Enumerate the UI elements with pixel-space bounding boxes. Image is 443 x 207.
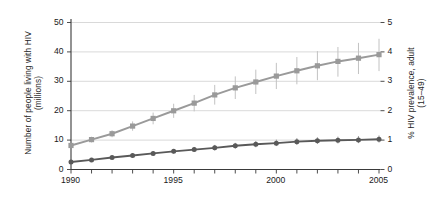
y-axis-right-tick-label: 0 xyxy=(388,164,410,174)
data-point xyxy=(110,155,115,160)
y-axis-right-tick-label: 3 xyxy=(388,75,410,85)
y-axis-right-tick-label: 4 xyxy=(388,46,410,56)
data-point xyxy=(171,149,176,154)
x-axis-tick-label: 2000 xyxy=(258,175,294,185)
x-axis-tick-label: 1990 xyxy=(53,175,89,185)
x-axis-tick-label: 2005 xyxy=(361,175,397,185)
data-point xyxy=(89,137,94,142)
series-line xyxy=(71,55,379,146)
data-point xyxy=(130,123,135,128)
data-point xyxy=(89,157,94,162)
data-point xyxy=(376,52,381,57)
data-point xyxy=(356,56,361,61)
y-axis-left-tick-label: 10 xyxy=(42,134,64,144)
y-axis-left-tick-label: 40 xyxy=(42,46,64,56)
data-point xyxy=(151,151,156,156)
data-point xyxy=(68,143,73,148)
y-axis-left-tick-label: 30 xyxy=(42,75,64,85)
data-point xyxy=(274,73,279,78)
hiv-chart: Number of people living with HIV (millio… xyxy=(0,0,443,207)
data-point xyxy=(192,147,197,152)
data-point xyxy=(356,137,361,142)
y-axis-right-tick-label: 1 xyxy=(388,134,410,144)
data-point xyxy=(69,159,74,164)
data-point xyxy=(233,85,238,90)
data-point xyxy=(212,145,217,150)
data-point xyxy=(377,137,382,142)
data-point xyxy=(212,92,217,97)
data-point xyxy=(130,153,135,158)
series-line xyxy=(71,139,379,162)
data-point xyxy=(109,131,114,136)
data-point xyxy=(192,101,197,106)
data-point xyxy=(171,108,176,113)
y-axis-right-tick-label: 5 xyxy=(388,17,410,27)
data-point xyxy=(335,138,340,143)
data-point xyxy=(151,116,156,121)
y-axis-right-tick-label: 2 xyxy=(388,105,410,115)
data-point xyxy=(294,139,299,144)
y-axis-left-tick-label: 50 xyxy=(42,17,64,27)
series-1 xyxy=(68,39,381,148)
data-point xyxy=(315,63,320,68)
y-axis-left-tick-label: 0 xyxy=(42,164,64,174)
data-point xyxy=(294,68,299,73)
x-axis-tick-label: 1995 xyxy=(155,175,191,185)
data-point xyxy=(253,142,258,147)
data-point xyxy=(253,79,258,84)
data-point xyxy=(233,143,238,148)
data-point xyxy=(335,59,340,64)
data-point xyxy=(274,141,279,146)
data-point xyxy=(315,138,320,143)
y-axis-left-tick-label: 20 xyxy=(42,105,64,115)
